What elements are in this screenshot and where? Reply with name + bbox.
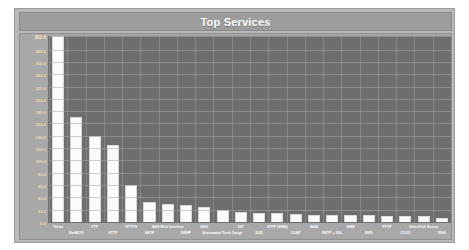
- x-axis-tick-label: LDAP: [291, 231, 301, 235]
- plot-area: [49, 36, 451, 222]
- x-axis-tick-label: 27015: [400, 231, 410, 235]
- bar[interactable]: [217, 210, 229, 222]
- gridline-vertical: [195, 36, 196, 222]
- y-axis-tick-label: 100.0: [36, 160, 46, 164]
- gridline-vertical: [49, 36, 50, 222]
- gridline-vertical: [86, 36, 87, 222]
- x-axis-tick-label: 587: [238, 225, 244, 229]
- x-axis-tick-label: SNMP: [181, 231, 191, 235]
- x-axis-tick-label: NetBIOS: [69, 231, 84, 235]
- x-axis-tick-label: Automated Tank Gauge: [203, 231, 243, 235]
- bar[interactable]: [180, 205, 192, 222]
- y-axis-tick-label: 0.0: [40, 222, 46, 226]
- screenshot-root: Top Services 302.0280.0260.0240.0220.020…: [0, 0, 469, 250]
- bar[interactable]: [52, 36, 64, 222]
- gridline-vertical: [305, 36, 306, 222]
- y-axis-tick-label: 80.0: [38, 173, 46, 177]
- gridline-vertical: [122, 36, 123, 222]
- x-axis-tick-label: HTTPS: [125, 225, 137, 229]
- chart-plot-frame: 302.0280.0260.0240.0220.0200.0180.0160.0…: [19, 33, 452, 240]
- y-axis-tick-label: 200.0: [36, 99, 46, 103]
- x-axis-tick-label: SMS: [365, 231, 373, 235]
- y-axis-tick-label: 260.0: [36, 62, 46, 66]
- bar[interactable]: [235, 212, 247, 222]
- y-axis-tick-label: 220.0: [36, 86, 46, 90]
- x-axis-tick-label: 8888: [347, 225, 355, 229]
- x-axis-tick-label: GlassFish Server: [409, 225, 438, 229]
- panel-title-bar: Top Services: [19, 12, 452, 31]
- x-axis-tick-label: FTP: [91, 225, 98, 229]
- gridline-vertical: [213, 36, 214, 222]
- bar[interactable]: [326, 215, 338, 222]
- y-axis-tick-label: 240.0: [36, 74, 46, 78]
- gridline-vertical: [323, 36, 324, 222]
- x-axis-tick-label: NAS Web Interface: [152, 225, 184, 229]
- gridline-vertical: [287, 36, 288, 222]
- y-axis-tick-label: 140.0: [36, 136, 46, 140]
- y-axis-tick-label: 120.0: [36, 148, 46, 152]
- bar[interactable]: [308, 215, 320, 222]
- bar[interactable]: [271, 213, 283, 222]
- bar[interactable]: [290, 214, 302, 222]
- y-axis-tick-label: 180.0: [36, 111, 46, 115]
- gridline-vertical: [232, 36, 233, 222]
- bar[interactable]: [253, 213, 265, 222]
- gridline-vertical: [104, 36, 105, 222]
- x-axis-tick-label: 2222: [255, 231, 263, 235]
- bar[interactable]: [143, 202, 155, 222]
- x-axis-tick-label: HTTP: [108, 231, 117, 235]
- y-axis: 302.0280.0260.0240.0220.0200.0180.0160.0…: [20, 36, 48, 222]
- bar[interactable]: [344, 215, 356, 222]
- bar[interactable]: [363, 215, 375, 222]
- gridline-vertical: [396, 36, 397, 222]
- gridline-vertical: [268, 36, 269, 222]
- gridline-vertical: [341, 36, 342, 222]
- y-axis-tick-label: 60.0: [38, 185, 46, 189]
- x-axis-tick-label: SMTP: [145, 231, 155, 235]
- top-services-panel: Top Services 302.0280.0260.0240.0220.020…: [14, 8, 455, 243]
- y-axis-tick-label: 160.0: [36, 123, 46, 127]
- x-axis-tick-label: SMTP + SSL: [322, 231, 343, 235]
- y-axis-tick-label: 20.0: [38, 210, 46, 214]
- x-axis-labels: TelnetNetBIOSFTPHTTPHTTPSSMTPNAS Web Int…: [49, 223, 451, 240]
- x-axis-tick-label: Telnet: [53, 225, 63, 229]
- gridline-vertical: [159, 36, 160, 222]
- gridline-vertical: [433, 36, 434, 222]
- bar[interactable]: [70, 117, 82, 222]
- page-title: Top Services: [200, 16, 270, 28]
- y-axis-tick-label: 40.0: [38, 197, 46, 201]
- x-axis-tick-label: PPTP: [382, 225, 391, 229]
- gridline-vertical: [360, 36, 361, 222]
- x-axis-tick-label: 4444: [310, 225, 318, 229]
- y-axis-tick-label: 302.0: [35, 36, 47, 40]
- gridline-vertical: [177, 36, 178, 222]
- y-axis-tick-label: 280.0: [36, 49, 46, 53]
- bar[interactable]: [125, 185, 137, 222]
- x-axis-tick-label: HTTP (8080): [267, 225, 288, 229]
- x-axis-tick-label: 5900: [438, 231, 446, 235]
- gridline-vertical: [378, 36, 379, 222]
- gridline-vertical: [140, 36, 141, 222]
- gridline-vertical: [250, 36, 251, 222]
- gridline-vertical: [67, 36, 68, 222]
- x-axis-tick-label: 9001: [200, 225, 208, 229]
- bar[interactable]: [162, 204, 174, 222]
- gridline-vertical: [414, 36, 415, 222]
